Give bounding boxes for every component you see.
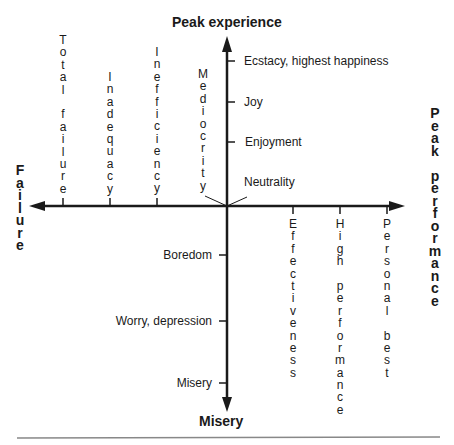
label-joy: Joy bbox=[244, 95, 263, 109]
label-inadequacy: Inadequacy bbox=[104, 71, 116, 195]
label-high-performance: High performance bbox=[334, 218, 346, 416]
arrow-right-icon bbox=[389, 201, 405, 211]
right-axis-title: Peak performance bbox=[428, 107, 442, 307]
label-ecstacy: Ecstacy, highest happiness bbox=[244, 54, 389, 68]
left-axis-title: Failure bbox=[13, 164, 27, 252]
label-worry-depression: Worry, depression bbox=[116, 314, 212, 328]
label-total-failure: Total failure bbox=[57, 34, 69, 195]
arrow-up-icon bbox=[222, 36, 232, 52]
top-axis-title: Peak experience bbox=[172, 14, 282, 30]
label-misery: Misery bbox=[177, 376, 212, 390]
label-neutrality: Neutrality bbox=[244, 175, 295, 189]
label-mediocrity: Mediocrity bbox=[197, 68, 209, 192]
arrow-left-icon bbox=[29, 201, 45, 211]
label-enjoyment: Enjoyment bbox=[245, 135, 302, 149]
label-effectiveness: Effectiveness bbox=[287, 218, 299, 379]
arrow-down-icon bbox=[222, 397, 232, 412]
label-inefficiency: Inefficiency bbox=[151, 46, 163, 195]
label-boredom: Boredom bbox=[163, 248, 212, 262]
label-personal-best: Personal best bbox=[381, 218, 393, 379]
bottom-axis-title: Misery bbox=[199, 413, 243, 429]
bottom-rule bbox=[17, 437, 440, 438]
